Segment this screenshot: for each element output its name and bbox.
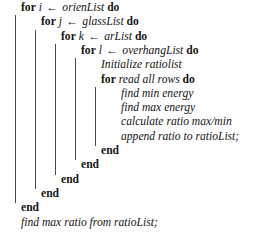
statement-initialize-ratiolist: Initialize ratiolist <box>101 58 182 72</box>
indent-rule-ar <box>55 44 56 175</box>
loop-variable-j: j <box>59 15 62 28</box>
loop-variable-l: l <box>99 44 102 57</box>
keyword-do: do <box>135 30 147 43</box>
end-overhang: end <box>81 158 99 172</box>
loop-condition-read-all-rows: read all rows <box>119 73 180 86</box>
loop-variable-i: i <box>39 1 42 14</box>
collection-arlist: arList <box>104 30 132 43</box>
statement-find-min-energy: find min energy <box>121 87 193 101</box>
assignment-arrow-icon: ← <box>45 1 60 14</box>
statement-find-max-energy: find max energy <box>121 101 195 115</box>
collection-orienlist: orienList <box>62 1 104 14</box>
keyword-do: do <box>107 1 119 14</box>
algorithm-pseudocode-block: for i ← orienList do for j ← glassList d… <box>0 0 255 235</box>
keyword-do: do <box>127 15 139 28</box>
loop-header-overhang: for l ← overhangList do <box>81 44 199 58</box>
keyword-do: do <box>186 44 198 57</box>
end-rows: end <box>101 144 119 158</box>
collection-overhanglist: overhangList <box>122 44 183 57</box>
keyword-for: for <box>41 15 56 28</box>
loop-variable-k: k <box>79 30 84 43</box>
indent-rule-rows <box>95 87 96 146</box>
loop-header-glass: for j ← glassList do <box>41 15 139 29</box>
assignment-arrow-icon: ← <box>65 15 80 28</box>
indent-rule-overhang <box>75 58 76 160</box>
end-orien: end <box>21 201 39 215</box>
end-ar: end <box>61 173 79 187</box>
keyword-for: for <box>21 1 36 14</box>
loop-header-orien: for i ← orienList do <box>21 1 119 15</box>
indent-rule-orien <box>15 15 16 203</box>
keyword-for: for <box>61 30 76 43</box>
assignment-arrow-icon: ← <box>87 30 102 43</box>
loop-header-ar: for k ← arList do <box>61 30 147 44</box>
indent-rule-glass <box>35 30 36 189</box>
keyword-for: for <box>81 44 96 57</box>
keyword-do: do <box>183 73 195 86</box>
statement-calculate-ratio: calculate ratio max/min <box>121 115 232 129</box>
end-glass: end <box>41 187 59 201</box>
keyword-for: for <box>101 73 116 86</box>
loop-header-rows: for read all rows do <box>101 73 195 87</box>
statement-append-ratio: append ratio to ratioList; <box>121 130 239 144</box>
collection-glasslist: glassList <box>82 15 123 28</box>
statement-find-max-ratio: find max ratio from ratioList; <box>21 216 158 230</box>
assignment-arrow-icon: ← <box>105 44 120 57</box>
